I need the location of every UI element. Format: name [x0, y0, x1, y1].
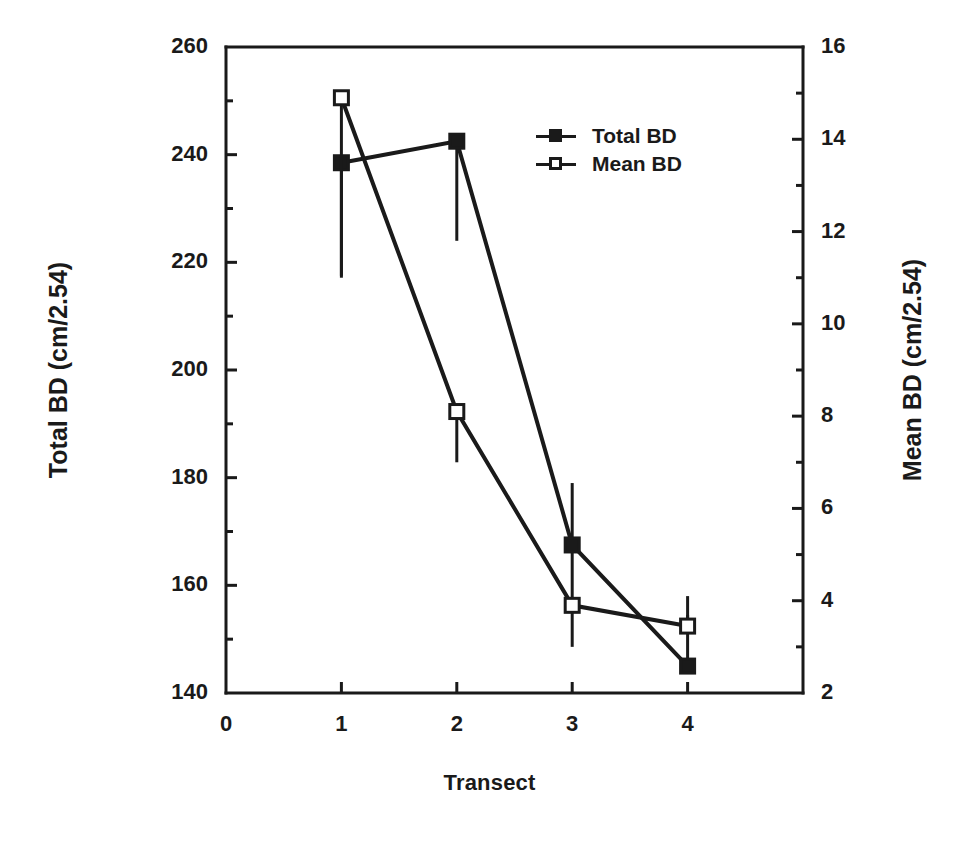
y-right-tick-6: 6	[821, 494, 881, 520]
data-point-filled-square	[565, 538, 579, 552]
y-right-tick-14: 14	[821, 125, 881, 151]
y-right-tick-10: 10	[821, 310, 881, 336]
y-right-tick-12: 12	[821, 218, 881, 244]
y-axis-right-title: Mean BD (cm/2.54)	[892, 20, 932, 720]
y-left-tick-180: 180	[118, 464, 208, 490]
chart-legend: Total BD Mean BD	[534, 122, 744, 178]
figure-container: Total BD (cm/2.54) Mean BD (cm/2.54) Tra…	[0, 0, 979, 855]
legend-label-mean-bd: Mean BD	[578, 152, 682, 176]
open-square-marker-icon	[534, 153, 578, 175]
data-point-open-square	[565, 598, 579, 612]
x-axis-title: Transect	[0, 770, 979, 796]
x-tick-3: 3	[532, 711, 612, 737]
y-left-tick-200: 200	[118, 356, 208, 382]
legend-item-total-bd: Total BD	[534, 122, 744, 150]
y-left-tick-240: 240	[118, 141, 208, 167]
y-axis-left-title: Total BD (cm/2.54)	[38, 20, 78, 720]
series-line-total-bd	[341, 141, 687, 666]
y-left-tick-160: 160	[118, 571, 208, 597]
filled-square-marker-icon	[534, 125, 578, 147]
y-right-tick-4: 4	[821, 587, 881, 613]
y-right-tick-2: 2	[821, 679, 881, 705]
data-point-open-square	[450, 405, 464, 419]
data-series	[334, 91, 694, 673]
data-point-filled-square	[450, 134, 464, 148]
x-tick-4: 4	[648, 711, 728, 737]
legend-item-mean-bd: Mean BD	[534, 150, 744, 178]
data-point-filled-square	[681, 659, 695, 673]
y-left-tick-220: 220	[118, 248, 208, 274]
y-left-tick-140: 140	[118, 679, 208, 705]
x-tick-0: 0	[186, 711, 266, 737]
y-right-tick-16: 16	[821, 33, 881, 59]
axis-ticks	[226, 93, 803, 693]
data-point-open-square	[681, 619, 695, 633]
y-left-tick-260: 260	[118, 33, 208, 59]
x-tick-1: 1	[301, 711, 381, 737]
data-point-open-square	[334, 91, 348, 105]
legend-label-total-bd: Total BD	[578, 124, 677, 148]
y-right-tick-8: 8	[821, 402, 881, 428]
x-tick-2: 2	[417, 711, 497, 737]
